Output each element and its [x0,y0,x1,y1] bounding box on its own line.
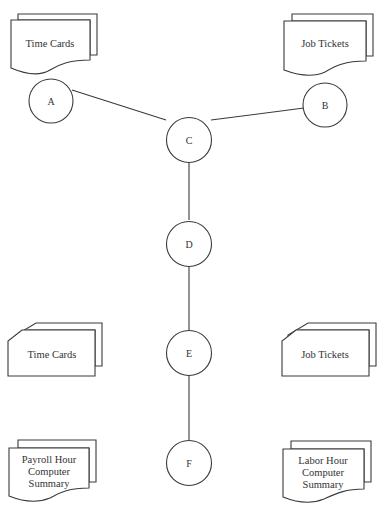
process-node-b: B [303,83,347,127]
node-label: C [186,135,193,146]
document-label: Time Cards [26,38,75,49]
cards-time-cards: Time Cards [8,323,102,376]
document-payroll-hour-summary: Payroll Hour Computer Summary [9,440,96,501]
edge-b-c [211,108,304,120]
document-label-line-1: Labor Hour [298,455,348,466]
process-node-e: E [167,331,212,376]
document-job-tickets-top: Job Tickets [284,14,373,75]
document-time-cards-top: Time Cards [11,14,97,74]
node-label: D [185,239,192,250]
process-node-d: D [167,222,212,267]
document-labor-hour-summary: Labor Hour Computer Summary [283,441,371,502]
process-node-f: F [167,441,212,486]
cards-label: Time Cards [28,349,77,360]
document-label: Job Tickets [301,38,349,49]
process-node-c: C [167,118,212,163]
document-label-line-2: Computer [28,466,70,477]
document-label-line-3: Summary [303,479,345,490]
node-label: B [322,100,329,111]
flowchart-canvas: Time Cards Job Tickets A B C D Time Card… [0,0,387,516]
edge-a-c [72,90,166,120]
document-label-line-3: Summary [29,478,71,489]
process-node-a: A [29,79,73,123]
node-label: E [186,348,192,359]
node-label: A [47,96,55,107]
cards-label: Job Tickets [301,349,349,360]
document-label-line-1: Payroll Hour [22,454,77,465]
cards-job-tickets: Job Tickets [282,323,376,376]
document-label-line-2: Computer [302,467,344,478]
node-label: F [186,458,192,469]
